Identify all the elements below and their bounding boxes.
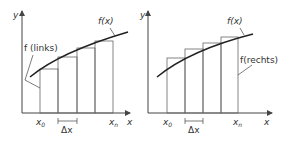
right-y-label: y [139,10,146,20]
left-y-label: y [12,10,19,20]
right-rectangles [167,37,238,113]
left-panel: y f(x) f (links) x0 xn x Δx [12,10,133,135]
left-x-label: x [126,117,133,127]
right-curve [157,34,253,77]
left-x0-label: x0 [35,117,45,128]
right-dx-label: Δx [188,125,200,135]
left-dx-marker [58,118,77,124]
right-dx-marker [185,118,203,124]
left-curve-label: f(x) [98,16,114,26]
right-x0-label: x0 [162,117,172,128]
right-xn-label: xn [232,117,242,128]
left-dx-label: Δx [61,125,73,135]
diagram-svg: y f(x) f (links) x0 xn x Δx [0,0,285,147]
right-curve-label: f(x) [227,16,243,26]
right-x-label: x [263,117,270,127]
right-method-label: f(rechts) [240,55,278,65]
left-method-label: f (links) [24,43,58,53]
left-xn-label: xn [108,117,118,128]
right-panel: y f(x) f(rechts) x0 xn x Δx [139,10,278,135]
riemann-sum-diagram: y f(x) f (links) x0 xn x Δx [0,0,285,147]
